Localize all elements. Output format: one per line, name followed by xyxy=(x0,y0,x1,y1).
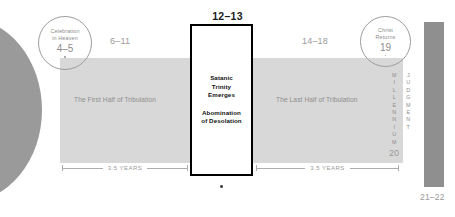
range-label-eternity: 21–22 xyxy=(420,192,445,202)
center-marker-dot-icon xyxy=(220,185,223,188)
measure-rule-icon xyxy=(147,168,187,169)
eternity-bar xyxy=(424,22,444,187)
vertical-label-judgment: JUDGMENT xyxy=(406,72,411,131)
center-box-block-abomination: Abomination of Desolation xyxy=(201,109,242,126)
vertical-letter: L xyxy=(393,87,396,94)
center-box-line: Trinity xyxy=(208,83,235,92)
center-box-line: Abomination xyxy=(201,109,242,118)
measure-rule-icon xyxy=(63,168,103,169)
callout-line-2: in Heaven xyxy=(52,35,78,42)
measure-cap-icon xyxy=(187,165,188,171)
vertical-letter: L xyxy=(393,94,396,101)
vertical-letter: I xyxy=(393,79,395,86)
vertical-letter: N xyxy=(406,116,410,123)
vertical-letter: M xyxy=(392,72,397,79)
tribulation-band-last-half xyxy=(253,58,403,163)
vertical-letter: D xyxy=(406,87,410,94)
measure-rule-icon xyxy=(257,168,305,169)
measure-cap-icon xyxy=(398,165,399,171)
range-label-center: 12–13 xyxy=(0,10,455,22)
callout-celebration-in-heaven: Celebration in Heaven 4–5 xyxy=(38,16,92,70)
caption-last-half-tribulation: The Last Half of Tribulation xyxy=(276,96,358,103)
crescent-shape xyxy=(0,18,42,202)
callout-dot-icon xyxy=(64,56,66,58)
vertical-letter: E xyxy=(392,102,396,109)
callout-line-2: Returns xyxy=(376,34,396,41)
vertical-letter: E xyxy=(406,109,410,116)
center-box-block-satanic-trinity: Satanic Trinity Emerges xyxy=(208,74,235,100)
measure-label: 3.5 YEARS xyxy=(103,165,148,171)
measure-rule-icon xyxy=(350,168,398,169)
callout-dot-icon xyxy=(385,55,387,57)
vertical-letter: N xyxy=(392,116,396,123)
vertical-letter: M xyxy=(392,139,397,146)
center-box-line: Satanic xyxy=(208,74,235,83)
vertical-letter: U xyxy=(406,79,410,86)
measure-label: 3.5 YEARS xyxy=(305,165,350,171)
vertical-letter: T xyxy=(407,124,411,131)
range-label-first-half: 6–11 xyxy=(110,36,130,46)
callout-christ-returns: Christ Returns 19 xyxy=(360,16,411,67)
vertical-letter: J xyxy=(407,72,410,79)
measure-first-half-duration: 3.5 YEARS xyxy=(62,162,188,174)
measure-last-half-duration: 3.5 YEARS xyxy=(256,162,399,174)
vertical-letter: N xyxy=(392,109,396,116)
vertical-label-millennium: MILLENNIUM xyxy=(392,72,397,146)
callout-line-1: Celebration xyxy=(50,28,79,35)
callout-reference: 19 xyxy=(380,42,391,54)
center-event-box: Satanic Trinity Emerges Abomination of D… xyxy=(190,24,253,176)
vertical-letter: G xyxy=(406,94,411,101)
vertical-letter: I xyxy=(393,124,395,131)
vertical-letter: M xyxy=(406,102,411,109)
center-box-line: Emerges xyxy=(208,91,235,100)
vertical-letter: U xyxy=(392,131,396,138)
callout-line-1: Christ xyxy=(378,27,393,34)
range-label-millennium: 20 xyxy=(389,148,399,158)
callout-reference: 4–5 xyxy=(57,43,74,55)
prophetic-timeline-diagram: Celebration in Heaven 4–5 Christ Returns… xyxy=(0,0,455,217)
caption-first-half-tribulation: The First Half of Tribulation xyxy=(74,96,156,103)
center-box-line: of Desolation xyxy=(201,117,242,126)
tribulation-band-first-half xyxy=(60,58,192,163)
range-label-last-half: 14–18 xyxy=(302,36,328,46)
